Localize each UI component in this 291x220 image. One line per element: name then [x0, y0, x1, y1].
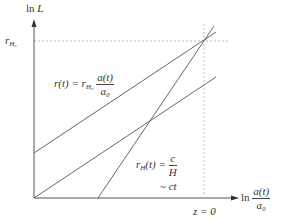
y-axis-label: ln L [26, 3, 43, 14]
x-axis-arrow-icon [231, 196, 239, 201]
proper-distance-label: r(t) = rH₀ a(t)a₀ [54, 72, 114, 97]
x-tick-label: z = 0 [193, 206, 216, 217]
y-tick-label: rH₀ [5, 35, 17, 48]
y-axis-arrow-icon [32, 19, 37, 27]
x-axis-label: ln a(t)a₀ [241, 186, 270, 211]
hubble-radius-label: rH(t) = cH [136, 153, 177, 178]
hubble-radius-approx: ~ ct [160, 181, 177, 192]
